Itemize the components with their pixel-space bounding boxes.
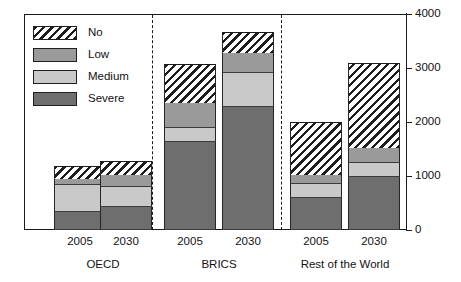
legend-label-low: Low [88, 49, 109, 61]
diagonal-hatch-swatch-icon [33, 26, 77, 40]
bar-segment-low [348, 148, 400, 163]
bar-segment-medium [54, 185, 106, 212]
bar-segment-severe [290, 198, 342, 230]
bar-segment-low [222, 53, 274, 73]
bar-rest-of-the-world-2030[interactable] [348, 63, 400, 230]
bar-segment-no [100, 161, 152, 175]
bar-segment-no [222, 32, 274, 53]
x-tick-label-oecd-2030: 2030 [100, 236, 152, 248]
bar-segment-medium [164, 128, 216, 142]
x-tick-label-brics-2030: 2030 [222, 236, 274, 248]
bar-segment-severe [100, 207, 152, 230]
bar-segment-low [164, 103, 216, 128]
group-label-rest-of-the-world: Rest of the World [289, 259, 401, 271]
legend-label-medium: Medium [88, 71, 129, 83]
bar-oecd-2005[interactable] [54, 166, 106, 230]
legend-item-low[interactable]: Low [33, 44, 137, 66]
bar-rest-of-the-world-2005[interactable] [290, 122, 342, 230]
legend-item-no[interactable]: No [33, 22, 137, 44]
stacked-bar-chart-figure: 4000 3000 2000 1000 0 [0, 0, 461, 282]
y-tick-label-3000: 3000 [415, 62, 441, 74]
x-tick-label-row-2005: 2005 [290, 236, 342, 248]
y-tick-label-1000: 1000 [415, 170, 441, 182]
bar-segment-severe [164, 142, 216, 230]
severe-gray-swatch-icon [33, 92, 77, 106]
bar-oecd-2030[interactable] [100, 161, 152, 230]
bar-segment-no [54, 166, 106, 179]
x-tick-label-brics-2005: 2005 [164, 236, 216, 248]
y-tick-label-4000: 4000 [415, 8, 441, 20]
bar-segment-severe [348, 177, 400, 230]
bar-segment-medium [348, 163, 400, 177]
bar-segment-medium [222, 73, 274, 107]
bar-segment-low [290, 175, 342, 184]
bar-segment-no [290, 122, 342, 175]
bar-segment-low [54, 179, 106, 185]
low-gray-swatch-icon [33, 48, 77, 62]
x-tick-label-row-2030: 2030 [348, 236, 400, 248]
bar-segment-no [348, 63, 400, 148]
bar-brics-2005[interactable] [164, 64, 216, 230]
medium-gray-swatch-icon [33, 70, 77, 84]
bar-segment-low [100, 175, 152, 187]
legend-item-medium[interactable]: Medium [33, 66, 137, 88]
group-label-brics: BRICS [163, 259, 275, 271]
legend-label-no: No [88, 27, 103, 39]
legend-item-severe[interactable]: Severe [33, 88, 137, 110]
bar-brics-2030[interactable] [222, 32, 274, 230]
y-tick-0 [406, 230, 412, 231]
y-tick-label-2000: 2000 [415, 116, 441, 128]
bar-segment-medium [100, 187, 152, 207]
legend-label-severe: Severe [88, 93, 124, 105]
group-label-oecd: OECD [51, 259, 155, 271]
y-tick-label-0: 0 [415, 224, 421, 236]
x-tick-label-oecd-2005: 2005 [54, 236, 106, 248]
chart-legend: No Low Medium Severe [33, 22, 137, 110]
bar-segment-medium [290, 184, 342, 198]
bar-segment-severe [54, 212, 106, 230]
bar-segment-no [164, 64, 216, 103]
bar-segment-severe [222, 107, 274, 230]
